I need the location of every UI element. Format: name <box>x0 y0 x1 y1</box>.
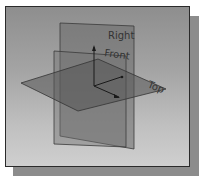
x-axis-end-icon <box>121 76 124 79</box>
datum-planes-drawing: Right Front Top <box>5 6 190 167</box>
right-plane-label: Right <box>108 30 134 41</box>
graphics-viewport[interactable]: Right Front Top <box>5 6 190 167</box>
